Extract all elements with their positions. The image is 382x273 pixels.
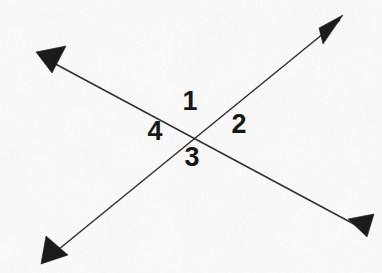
angle-label-1: 1	[182, 86, 197, 116]
intersecting-lines-figure: 1 2 3 4	[0, 0, 382, 273]
angle-label-4: 4	[147, 116, 162, 146]
angle-label-2: 2	[231, 109, 246, 139]
angle-label-3: 3	[184, 142, 199, 172]
angle-diagram-canvas: 1 2 3 4	[0, 0, 382, 273]
